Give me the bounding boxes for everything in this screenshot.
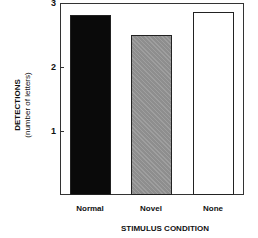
x-axis-label: STIMULUS CONDITION [90, 224, 240, 233]
y-tick-label: 1 [46, 127, 56, 136]
bar-normal [70, 15, 111, 195]
bar-novel [131, 35, 172, 195]
x-category-label: Normal [60, 204, 120, 213]
y-tick-label: 3 [46, 0, 56, 8]
bar-none [193, 12, 234, 195]
y-axis-title: DETECTIONS [13, 30, 23, 180]
y-tick-2 [60, 67, 64, 68]
y-tick-3 [60, 3, 64, 4]
y-axis-label: DETECTIONS (number of letters) [13, 30, 33, 180]
y-tick-label: 2 [46, 63, 56, 72]
x-category-label: Novel [121, 204, 181, 213]
y-tick-1 [60, 131, 64, 132]
x-category-label: None [183, 204, 243, 213]
y-axis-subtitle: (number of letters) [23, 30, 33, 180]
